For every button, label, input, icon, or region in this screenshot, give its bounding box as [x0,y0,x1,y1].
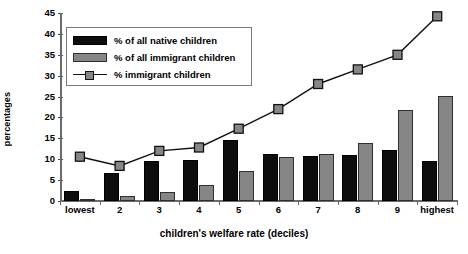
y-axis-title: percentages [2,92,16,146]
x-tick-label: 5 [219,205,259,215]
legend-swatch-immigrant-icon [73,53,107,62]
y-tick-label: 15 [33,133,55,143]
line-marker [274,105,283,114]
y-tick-label: 35 [33,50,55,60]
legend-swatch-native-icon [73,36,107,45]
legend-label-line: % immigrant children [114,69,211,80]
x-tick-label: 4 [179,205,219,215]
x-tick-label: 8 [338,205,378,215]
legend-swatch-line-icon [73,70,107,79]
legend-entry-native: % of all native children [73,32,217,48]
y-tick-label: 40 [33,29,55,39]
line-marker [195,143,204,152]
x-tick-label: 3 [139,205,179,215]
y-tick-label: 10 [33,154,55,164]
y-tick-label: 5 [33,175,55,185]
x-tick-label: 2 [100,205,140,215]
legend-entry-line: % immigrant children [73,66,211,82]
line-marker [115,161,124,170]
x-axis-title: children's welfare rate (deciles) [0,228,468,239]
y-tick-label: 30 [33,71,55,81]
line-marker [314,80,323,89]
chart-legend: % of all native children % of all immigr… [66,27,252,86]
line-marker [155,146,164,155]
x-tick-label: highest [417,205,457,215]
line-marker [234,124,243,133]
y-tick-label: 0 [33,196,55,206]
x-tick-label: 9 [378,205,418,215]
legend-entry-immigrant: % of all immigrant children [73,49,235,65]
line-marker [75,152,84,161]
y-tick-label: 45 [33,8,55,18]
chart-container: percentages 051015202530354045 lowest234… [0,0,468,254]
x-tick-label: lowest [60,205,100,215]
x-tick-label: 6 [259,205,299,215]
line-marker [393,50,402,59]
y-tick-label: 20 [33,112,55,122]
x-tick-label: 7 [298,205,338,215]
y-tick-label: 25 [33,92,55,102]
x-tick-mark [457,200,458,205]
line-marker [433,12,442,21]
legend-label-immigrant: % of all immigrant children [114,52,235,63]
legend-label-native: % of all native children [114,35,217,46]
line-marker [353,65,362,74]
